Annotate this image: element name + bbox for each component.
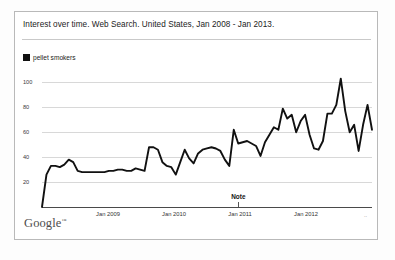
x-axis-tick-label: Jan 2012	[294, 211, 318, 217]
y-axis-tick-label: 60	[23, 129, 29, 135]
legend-swatch-icon	[23, 54, 30, 61]
chart-plot-area: 20406080100 Note	[23, 70, 372, 208]
x-axis-trailing-label: ..	[364, 212, 367, 218]
google-logo: Google™	[24, 216, 66, 231]
y-axis-tick-label: 40	[23, 154, 29, 160]
google-wordmark: Google	[24, 216, 61, 230]
x-axis-tick-label: Jan 2011	[228, 211, 251, 217]
page-title: Interest over time. Web Search. United S…	[23, 20, 274, 29]
note-annotation-label: Note	[231, 193, 245, 200]
note-marker-tick	[238, 202, 239, 207]
chart-series-line	[42, 70, 372, 208]
legend-item-label: pellet smokers	[33, 54, 76, 61]
x-axis-tick-label: Jan 2009	[96, 211, 120, 217]
chart-legend: pellet smokers	[23, 54, 76, 61]
y-axis-tick-label: 80	[23, 104, 29, 110]
trademark-symbol: ™	[61, 218, 66, 223]
google-trends-chart-card: Interest over time. Web Search. United S…	[14, 11, 378, 240]
title-divider	[22, 39, 371, 40]
y-axis-tick-label: 100	[23, 79, 32, 85]
y-axis-tick-label: 20	[23, 179, 29, 185]
screenshot-root: Interest over time. Web Search. United S…	[0, 0, 395, 260]
x-axis-tick-label: Jan 2010	[162, 211, 186, 217]
